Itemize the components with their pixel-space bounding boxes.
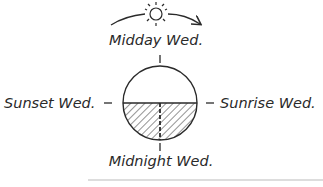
label-midday: Midday Wed. bbox=[109, 32, 203, 48]
label-sunrise: Sunrise Wed. bbox=[220, 95, 316, 111]
label-sunset: Sunset Wed. bbox=[4, 95, 95, 111]
sun-icon bbox=[145, 2, 167, 26]
label-midnight: Midnight Wed. bbox=[109, 153, 214, 169]
globe bbox=[123, 66, 197, 140]
day-night-diagram: Midday Wed. Sunset Wed. Sunrise Wed. Mid… bbox=[0, 0, 323, 187]
